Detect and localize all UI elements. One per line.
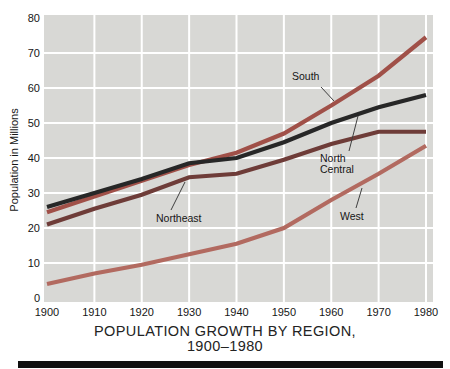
annotation-west: West	[340, 211, 364, 222]
chart-title-line1: POPULATION GROWTH BY REGION,	[0, 324, 450, 339]
y-tick-label: 80	[6, 12, 40, 24]
x-tick-label: 1910	[76, 306, 112, 318]
annotation-northeast: Northeast	[156, 213, 202, 224]
y-tick-label: 70	[6, 47, 40, 59]
x-tick-label: 1980	[408, 306, 444, 318]
y-tick-label: 10	[6, 257, 40, 269]
annotation-south: South	[292, 71, 319, 82]
y-tick-label: 20	[6, 222, 40, 234]
x-tick-label: 1960	[313, 306, 349, 318]
y-tick-label: 0	[6, 292, 40, 304]
annotation-north-central: NorthCentral	[320, 153, 354, 175]
chart-title: POPULATION GROWTH BY REGION, 1900–1980	[0, 324, 450, 354]
annotation-line: Northeast	[156, 213, 202, 224]
x-tick-label: 1970	[361, 306, 397, 318]
plot-canvas	[0, 0, 450, 330]
x-tick-label: 1900	[29, 306, 65, 318]
bottom-rule	[18, 361, 443, 368]
x-tick-label: 1930	[171, 306, 207, 318]
y-tick-label: 60	[6, 82, 40, 94]
annotation-line: West	[340, 211, 364, 222]
x-tick-label: 1940	[219, 306, 255, 318]
y-axis-title: Population in Millions	[8, 108, 20, 211]
x-tick-label: 1950	[266, 306, 302, 318]
annotation-line: South	[292, 71, 319, 82]
annotation-line: Central	[320, 164, 354, 175]
x-tick-label: 1920	[124, 306, 160, 318]
chart-title-line2: 1900–1980	[0, 339, 450, 354]
population-growth-chart-figure: 01020304050607080 1900191019201930194019…	[0, 0, 450, 369]
